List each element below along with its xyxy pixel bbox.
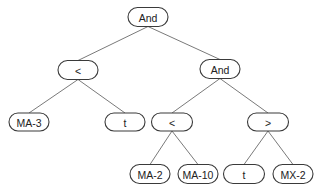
node-label: <: [169, 117, 175, 129]
node-label: t: [243, 169, 246, 181]
tree-node: <: [58, 61, 98, 80]
node-label: t: [124, 117, 127, 129]
tree-node: MA-3: [9, 113, 49, 131]
node-label: <: [75, 65, 81, 77]
tree-node: MX-2: [273, 165, 313, 184]
node-label: MA-10: [183, 169, 214, 181]
tree-edge: [150, 131, 172, 165]
tree-node: And: [200, 60, 240, 79]
tree-edge: [244, 131, 268, 165]
tree-node: >: [248, 113, 289, 131]
tree-edge: [78, 27, 148, 61]
tree-node: And: [128, 8, 168, 27]
node-label: And: [139, 12, 158, 24]
expression-tree: And<AndMA-3t<>MA-2MA-10tMX-2: [0, 0, 322, 193]
tree-edge: [29, 80, 78, 114]
tree-edge: [78, 80, 125, 114]
tree-edge: [172, 131, 198, 165]
node-label: MA-2: [137, 169, 162, 181]
tree-node: MA-2: [130, 165, 170, 184]
tree-edge: [268, 131, 293, 165]
edges-layer: [29, 27, 293, 165]
tree-edge: [172, 79, 220, 114]
node-label: MX-2: [280, 169, 305, 181]
tree-node: t: [224, 165, 265, 184]
tree-edge: [148, 27, 220, 60]
tree-node: <: [152, 113, 193, 131]
node-label: MA-3: [16, 117, 41, 129]
tree-edge: [220, 79, 268, 114]
tree-node: t: [105, 113, 145, 131]
tree-node: MA-10: [178, 165, 218, 184]
node-label: >: [265, 117, 271, 129]
node-label: And: [211, 64, 230, 76]
